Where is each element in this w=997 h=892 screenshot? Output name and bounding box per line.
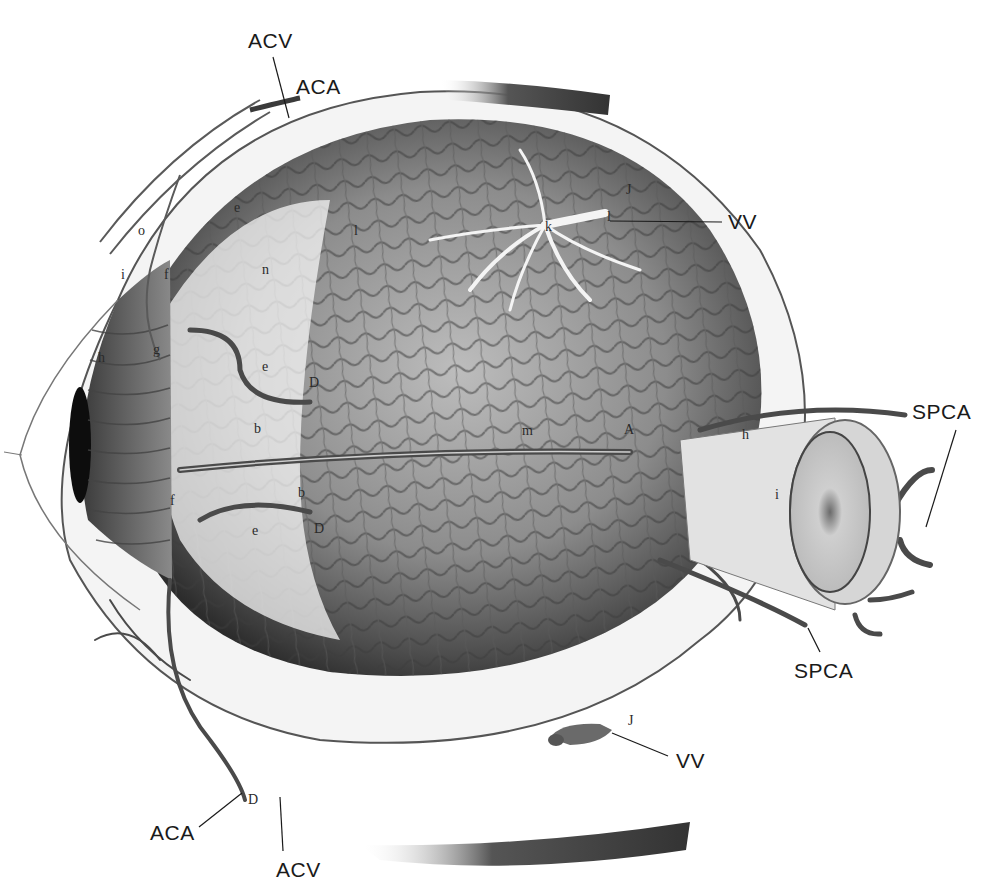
vortex-vein-bottom: [548, 724, 612, 746]
letter-f-1: f: [164, 268, 169, 282]
letter-o: o: [138, 224, 145, 238]
letter-e-1: e: [234, 201, 240, 215]
letter-g: g: [153, 343, 160, 357]
leader-vv-bottom: [612, 733, 668, 756]
letter-b-1: b: [254, 422, 261, 436]
label-vv-bottom: VV: [676, 750, 705, 771]
letter-m: m: [522, 424, 533, 438]
letter-J-top: J: [626, 183, 631, 197]
eye-vascular-diagram: ACV ACA VV SPCA SPCA VV ACA ACV J k l e …: [0, 0, 997, 892]
label-aca-bottom: ACA: [150, 822, 195, 843]
leader-spca-bottom: [808, 628, 820, 652]
leader-spca-right: [926, 430, 956, 527]
letter-l: l: [607, 210, 611, 224]
letter-e-2: e: [262, 360, 268, 374]
letter-i-2: i: [775, 488, 779, 502]
letter-b-2: b: [298, 486, 305, 500]
letter-D-3: D: [248, 793, 258, 807]
label-spca-bottom: SPCA: [794, 660, 853, 681]
leader-acv-bottom: [280, 797, 283, 851]
letter-h-2: h: [742, 428, 749, 442]
corneal-apex-tick: [4, 452, 22, 455]
letter-A: A: [624, 423, 634, 437]
inferior-muscle: [360, 822, 690, 866]
letter-D-1: D: [309, 376, 319, 390]
letter-J-bottom: J: [628, 714, 633, 728]
letter-e-3: e: [252, 524, 258, 538]
leader-acv-top: [273, 57, 289, 118]
letter-i-1: i: [121, 268, 125, 282]
letter-f-2: f: [170, 494, 175, 508]
label-vv-top: VV: [728, 211, 757, 232]
label-spca-right: SPCA: [912, 401, 971, 422]
letter-l-2: l: [354, 224, 358, 238]
letter-n: n: [262, 263, 269, 277]
pupil: [69, 387, 91, 503]
label-acv-bottom: ACV: [276, 859, 321, 880]
letter-h-1: h: [98, 351, 105, 365]
label-acv-top: ACV: [248, 30, 293, 51]
illustration-canvas: [0, 0, 997, 892]
letter-D-2: D: [314, 522, 324, 536]
letter-k: k: [545, 220, 552, 234]
leader-aca-bottom: [199, 793, 242, 827]
label-aca-top: ACA: [296, 76, 341, 97]
